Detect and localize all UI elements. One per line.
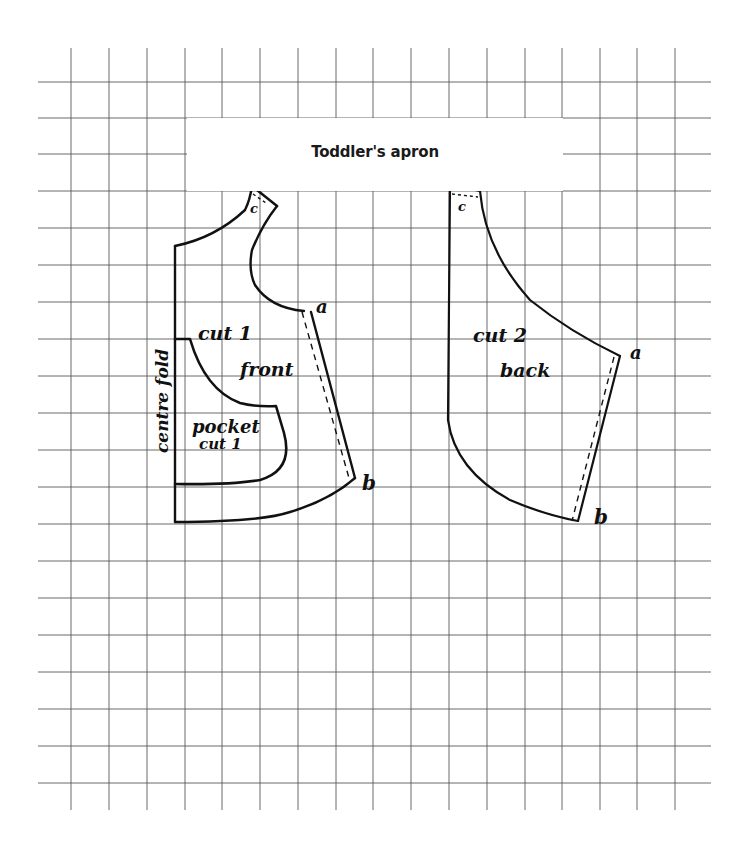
back-side-seam	[578, 356, 620, 521]
front-label-cut: cut 1	[198, 322, 252, 344]
pocket-label: pocket	[192, 416, 260, 437]
front-label-name: front	[238, 358, 294, 380]
back-point-b: b	[594, 505, 608, 529]
front-point-a: a	[316, 296, 328, 317]
title-box: Toddler's apron	[187, 118, 563, 191]
front-side-seam	[311, 312, 355, 478]
back-hem	[448, 420, 578, 521]
front-armhole	[251, 206, 304, 311]
back-label-name: back	[500, 359, 550, 381]
back-label-cut: cut 2	[473, 324, 527, 346]
front-point-c: c	[250, 201, 258, 216]
pocket-label-cut: cut 1	[199, 435, 242, 453]
front-point-b: b	[362, 471, 376, 495]
front-label-fold: centre fold	[152, 349, 172, 453]
back-piece	[448, 185, 620, 521]
front-piece	[175, 186, 355, 522]
back-centre-line	[448, 185, 450, 420]
back-point-a: a	[630, 342, 642, 363]
back-point-c: c	[458, 199, 466, 214]
front-seam-allowances	[253, 194, 349, 478]
page-title: Toddler's apron	[311, 143, 439, 161]
front-neck-curve	[175, 186, 252, 246]
